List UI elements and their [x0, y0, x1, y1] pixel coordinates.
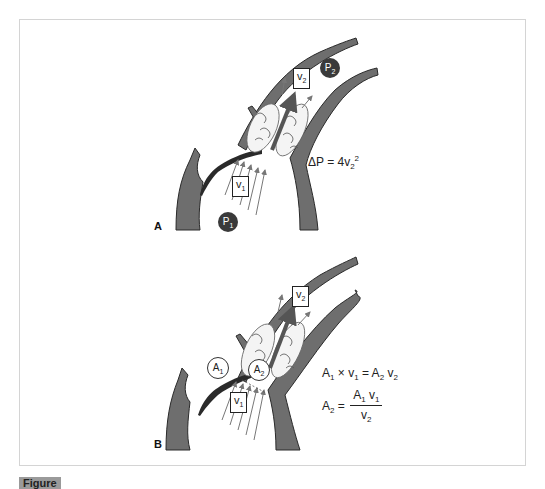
v2-sub: 2 — [302, 295, 306, 302]
eq-equals: = — [334, 399, 344, 413]
panel-b: B v2 v1 A1 A2 A1 × v1 = A2 v2 A2 = A1 v1… — [0, 240, 545, 470]
eq-sub: 2 — [350, 162, 354, 171]
velocity-v2-label: v2 — [292, 286, 309, 307]
v1-sub: 1 — [242, 185, 246, 192]
velocity-v2-label: v2 — [293, 68, 310, 89]
fraction-denominator: v2 — [350, 406, 382, 424]
panel-label-b: B — [154, 438, 162, 450]
num-a1: A — [353, 388, 361, 402]
bernoulli-equation: ΔP = 4v22 — [308, 154, 359, 171]
eq-equals-a2: = A — [359, 366, 380, 380]
a2-sub: 2 — [260, 370, 264, 377]
figure-caption: Figure — [19, 477, 539, 489]
aortic-stenosis-diagram-b — [0, 240, 545, 470]
eq-v2-sub: 2 — [393, 373, 397, 382]
eq-times-v1: × v — [334, 366, 354, 380]
p2-sub: 2 — [331, 68, 335, 75]
p1-sub: 1 — [229, 222, 233, 229]
pressure-p2-badge: P2 — [320, 58, 340, 78]
fraction: A1 v1 v2 — [350, 388, 382, 425]
eq-lhs: ΔP = 4v — [308, 155, 350, 169]
caption-figure-label: Figure — [19, 477, 61, 489]
pressure-p1-badge: P1 — [218, 212, 238, 232]
velocity-v1-label: v1 — [232, 176, 249, 197]
area-a1-badge: A1 — [207, 357, 229, 379]
fraction-numerator: A1 v1 — [350, 388, 382, 406]
eq-lhs-a2: A — [322, 399, 330, 413]
eq-sup: 2 — [355, 154, 359, 163]
num-v1-sub: 1 — [375, 395, 379, 404]
continuity-equation: A1 × v1 = A2 v2 — [322, 366, 398, 382]
panel-label-a: A — [154, 220, 162, 232]
panel-a: A v2 v1 P2 P1 ΔP = 4v22 — [0, 0, 545, 240]
num-v1: v — [366, 388, 375, 402]
v2-sub: 2 — [303, 77, 307, 84]
v1-sub: 1 — [240, 401, 244, 408]
a1-sub: 1 — [219, 368, 223, 375]
aortic-stenosis-diagram-a — [0, 0, 545, 240]
eq-a1: A — [322, 366, 330, 380]
velocity-v1-label: v1 — [230, 392, 247, 413]
solved-area-equation: A2 = A1 v1 v2 — [322, 388, 382, 425]
area-a2-badge: A2 — [248, 359, 270, 381]
den-v2-sub: 2 — [367, 416, 371, 425]
